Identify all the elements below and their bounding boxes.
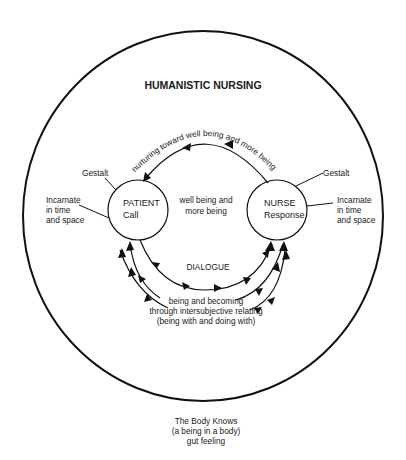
right-gestalt-label: Gestalt [323, 168, 350, 178]
diagram-title: HUMANISTIC NURSING [144, 79, 261, 91]
caption-line1: The Body Knows [175, 416, 238, 426]
left-gestalt-leader [105, 178, 116, 190]
arrowhead-icon [265, 241, 275, 251]
right-incarnate-leader [307, 203, 333, 206]
arrowhead-icon [267, 297, 275, 305]
center-text-line2: more being [185, 206, 227, 216]
right-incarnate-line3: and space [337, 215, 376, 225]
arrowhead-icon [118, 248, 126, 258]
arrowhead-icon [243, 277, 251, 285]
intersubjective-line3: (being with and doing with) [157, 316, 256, 326]
nurse-sublabel: Response [264, 210, 305, 220]
arrowhead-icon [279, 241, 288, 251]
left-incarnate-line3: and space [46, 215, 85, 225]
arrowhead-icon [126, 241, 134, 251]
humanistic-nursing-diagram: HUMANISTIC NURSING nurturing toward well… [0, 0, 406, 460]
arrowhead-icon [182, 143, 191, 151]
patient-sublabel: Call [123, 210, 139, 220]
right-gestalt-leader [296, 173, 323, 186]
caption-line2: (a being in a body) [172, 426, 241, 436]
intersubjective-line1: being and becoming [169, 296, 244, 306]
right-incarnate-line2: in time [337, 205, 362, 215]
arrowhead-icon [214, 284, 222, 292]
left-gestalt-label: Gestalt [82, 168, 109, 178]
arrowhead-icon [282, 250, 290, 260]
right-outer-arc-2 [250, 250, 285, 310]
dialogue-label: DIALOGUE [187, 262, 230, 272]
nurse-label: NURSE [264, 198, 296, 208]
arrowhead-icon [255, 288, 263, 296]
patient-label: PATIENT [123, 198, 160, 208]
left-incarnate-line1: Incarnate [46, 195, 81, 205]
center-text-line1: well being and [178, 195, 232, 205]
right-incarnate-line1: Incarnate [337, 195, 372, 205]
intersubjective-line2: through intersubjective relating [150, 306, 263, 316]
arrowhead-icon [138, 275, 146, 283]
nurturing-label: nurturing toward well being and more bei… [129, 128, 278, 174]
caption-line3: gut feeling [187, 436, 226, 446]
left-incarnate-line2: in time [46, 205, 71, 215]
